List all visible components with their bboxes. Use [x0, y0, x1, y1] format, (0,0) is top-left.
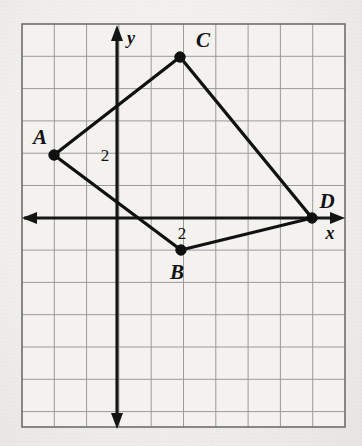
- y-axis-tick-2: 2: [101, 146, 110, 165]
- coordinate-grid-figure: ABCD22xy: [0, 0, 362, 446]
- point-label-c: C: [196, 28, 211, 52]
- figure-page: ABCD22xy: [0, 0, 362, 446]
- x-axis-label: x: [325, 223, 335, 243]
- point-label-d: D: [318, 189, 334, 213]
- vertex-point-d: [307, 213, 317, 223]
- vertex-point-a: [49, 150, 59, 160]
- y-axis-label: y: [125, 28, 136, 48]
- vertex-point-c: [175, 52, 185, 62]
- vertex-point-b: [176, 245, 186, 255]
- point-label-b: B: [169, 260, 184, 284]
- point-label-a: A: [31, 125, 47, 149]
- x-axis-tick-2: 2: [178, 224, 187, 243]
